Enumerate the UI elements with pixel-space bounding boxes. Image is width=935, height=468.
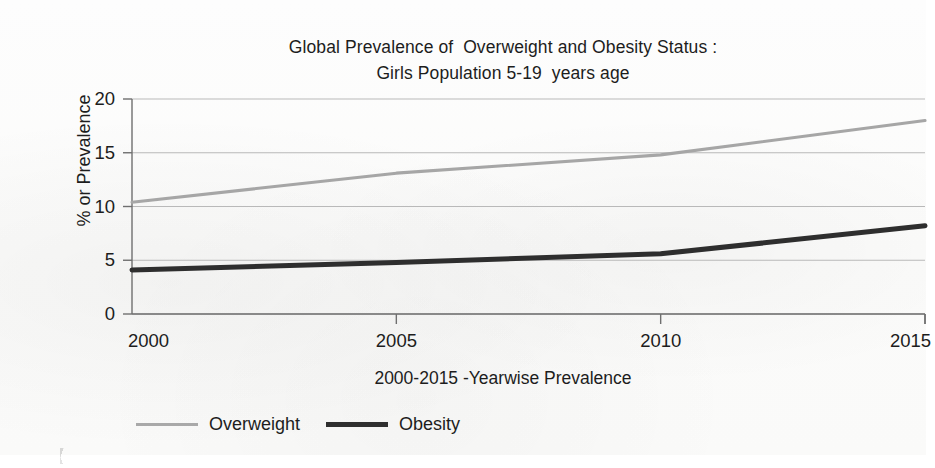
legend-item-obesity[interactable]: Obesity xyxy=(326,414,460,435)
chart-legend: Overweight Obesity xyxy=(136,414,460,435)
data-series-group xyxy=(132,121,925,270)
gridlines-group xyxy=(132,99,925,314)
legend-item-overweight[interactable]: Overweight xyxy=(136,414,300,435)
legend-label-overweight: Overweight xyxy=(209,414,300,435)
x-axis-title: 2000-2015 -Yearwise Prevalence xyxy=(40,368,935,389)
legend-swatch-obesity-icon xyxy=(326,422,388,427)
x-tick-label-2010: 2010 xyxy=(640,332,681,351)
paper-speckle xyxy=(60,448,74,464)
legend-swatch-overweight-icon xyxy=(136,423,198,426)
y-tick-label-0: 0 xyxy=(69,305,115,324)
y-tick-label-5: 5 xyxy=(69,251,115,270)
tickmarks-group xyxy=(123,99,925,324)
plot-area: % or Prevalence 05101520 200020052010201… xyxy=(40,16,935,468)
y-tick-label-10: 10 xyxy=(69,198,115,217)
plot-canvas xyxy=(40,16,935,468)
y-tick-label-15: 15 xyxy=(69,144,115,163)
x-tick-label-2000: 2000 xyxy=(128,332,169,351)
y-tick-label-20: 20 xyxy=(69,90,115,109)
legend-label-obesity: Obesity xyxy=(399,414,460,435)
series-line-obesity xyxy=(132,226,925,270)
line-chart-figure: Global Prevalence of Overweight and Obes… xyxy=(40,16,886,439)
x-tick-label-2005: 2005 xyxy=(376,332,417,351)
series-line-overweight xyxy=(132,121,925,203)
x-tick-label-2015: 2015 xyxy=(890,332,931,351)
axes-group xyxy=(132,99,925,324)
